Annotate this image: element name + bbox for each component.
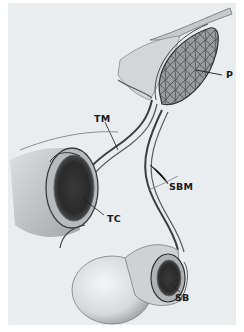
label-pancreas: P bbox=[226, 70, 233, 80]
label-small-bowel: SB bbox=[175, 293, 189, 303]
label-transverse-mesocolon: TM bbox=[94, 114, 110, 124]
label-small-bowel-mesentery: SBM bbox=[169, 182, 193, 192]
transverse-colon bbox=[10, 148, 104, 248]
anatomical-illustration bbox=[0, 0, 244, 332]
label-transverse-colon: TC bbox=[107, 214, 121, 224]
